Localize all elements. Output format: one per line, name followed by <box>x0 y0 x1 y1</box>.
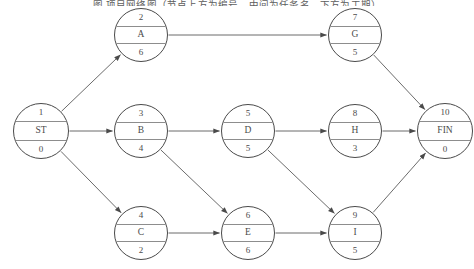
node-label: E <box>222 224 274 243</box>
node-label: C <box>115 224 167 243</box>
network-diagram-canvas: 图 项目网络图（节点上方为编号，中间为任务名，下方为工期） 1ST02A63B4… <box>0 0 474 269</box>
node-label: FIN <box>418 121 472 140</box>
node-label: G <box>329 26 381 45</box>
node-e[interactable]: 6E6 <box>221 206 275 260</box>
node-label: I <box>329 224 381 243</box>
node-a[interactable]: 2A6 <box>114 8 168 62</box>
node-d[interactable]: 5D5 <box>221 104 275 158</box>
node-h[interactable]: 8H3 <box>328 104 382 158</box>
node-i[interactable]: 9I5 <box>328 206 382 260</box>
edge-i-to-fin <box>373 153 425 212</box>
node-st[interactable]: 1ST0 <box>13 103 69 159</box>
edge-g-to-fin <box>374 55 425 109</box>
edge-st-to-c <box>61 151 121 212</box>
node-label: A <box>115 26 167 45</box>
node-g[interactable]: 7G5 <box>328 8 382 62</box>
node-label: B <box>115 122 167 141</box>
node-b[interactable]: 3B4 <box>114 104 168 158</box>
edge-d-to-i <box>268 150 334 213</box>
edge-b-to-e <box>161 150 227 213</box>
node-label: D <box>222 122 274 141</box>
node-label: ST <box>14 121 68 140</box>
node-c[interactable]: 4C2 <box>114 206 168 260</box>
node-fin[interactable]: 10FIN0 <box>417 103 473 159</box>
edge-st-to-a <box>62 55 121 112</box>
node-label: H <box>329 122 381 141</box>
